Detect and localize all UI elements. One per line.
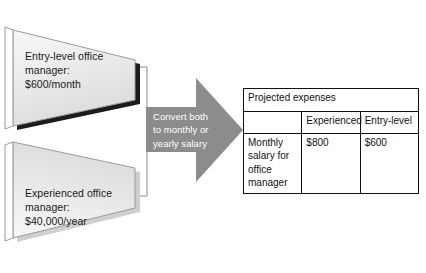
table-header-experienced: Experienced: [302, 112, 360, 134]
entry-level-shape-edge: [5, 27, 13, 129]
table-cell-entry-level-value: $600: [360, 134, 418, 194]
table-title-row: Projected expenses: [244, 89, 419, 112]
convert-arrow-label: Convert both to monthly or yearly salary: [153, 110, 209, 150]
salary-conversion-diagram: Entry-level office manager: $600/month E…: [0, 0, 426, 273]
experienced-shape-label: Experienced office manager: $40,000/year: [25, 186, 112, 229]
table-row: Monthly salary for office manager $800 $…: [244, 134, 419, 194]
experienced-shape-edge: [5, 142, 13, 241]
table-header-blank: [244, 112, 302, 134]
entry-level-shape-label: Entry-level office manager: $600/month: [25, 49, 103, 92]
table-header-row: Experienced Entry-level: [244, 112, 419, 134]
projected-expenses-table: Projected expenses Experienced Entry-lev…: [243, 88, 419, 194]
table-title-cell: Projected expenses: [244, 89, 419, 112]
table-cell-experienced-value: $800: [302, 134, 360, 194]
table-header-entry-level: Entry-level: [360, 112, 418, 134]
table-cell-row-label: Monthly salary for office manager: [244, 134, 302, 194]
